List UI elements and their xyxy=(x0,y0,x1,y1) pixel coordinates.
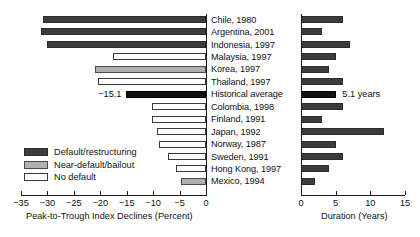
legend-label: No default xyxy=(54,172,96,182)
duration-bar xyxy=(301,128,384,135)
duration-bar xyxy=(301,66,329,73)
legend-swatch-default xyxy=(24,148,48,156)
decline-bar xyxy=(95,66,206,73)
duration-bar xyxy=(301,153,343,160)
category-label: Mexico, 1994 xyxy=(211,176,264,186)
category-label: Finland, 1991 xyxy=(211,114,265,124)
right-axis-tick-label: 15 xyxy=(390,198,420,208)
left-axis-tick xyxy=(206,191,207,195)
category-label: Colombia, 1998 xyxy=(211,102,274,112)
left-panel-zero-axis xyxy=(206,14,207,195)
right-axis-tick xyxy=(405,191,406,195)
category-label: Korea, 1997 xyxy=(211,64,260,74)
decline-bar xyxy=(159,141,206,148)
legend-swatch-none xyxy=(24,173,48,181)
category-label: Norway, 1987 xyxy=(211,139,266,149)
decline-bar xyxy=(181,178,206,185)
category-label: Malaysia, 1997 xyxy=(211,52,271,62)
category-label: Historical average xyxy=(211,89,283,99)
legend-label: Near-default/bailout xyxy=(54,160,134,170)
duration-bar xyxy=(301,103,343,110)
decline-bar xyxy=(168,153,206,160)
duration-bar xyxy=(301,41,350,48)
decline-bar xyxy=(98,78,206,85)
category-label: Sweden, 1991 xyxy=(211,152,269,162)
duration-bar xyxy=(301,53,336,60)
left-axis-tick xyxy=(21,191,22,195)
category-label: Argentina, 2001 xyxy=(211,27,274,37)
category-label: Thailand, 1997 xyxy=(211,77,270,87)
left-axis-tick xyxy=(74,191,75,195)
duration-bar xyxy=(301,141,336,148)
decline-bar xyxy=(157,128,206,135)
category-label: Indonesia, 1997 xyxy=(211,40,275,50)
decline-value-annotation: −15.1 xyxy=(98,89,121,99)
duration-bar xyxy=(301,16,343,23)
duration-bar xyxy=(301,178,315,185)
decline-bar xyxy=(152,103,206,110)
right-axis-tick xyxy=(370,191,371,195)
right-panel-zero-axis xyxy=(301,14,302,195)
left-axis-tick xyxy=(47,191,48,195)
legend-label: Default/restructuring xyxy=(54,147,137,157)
left-panel-axis-line xyxy=(21,195,207,196)
right-axis-tick xyxy=(301,191,302,195)
left-axis-tick-label: 0 xyxy=(191,198,221,208)
category-label: Hong Kong, 1997 xyxy=(211,164,281,174)
right-panel-axis-title: Duration (Years) xyxy=(321,211,388,221)
right-panel-axis-line xyxy=(301,195,405,196)
left-panel-axis-title: Peak-to-Trough Index Declines (Percent) xyxy=(26,211,193,221)
decline-bar xyxy=(47,41,206,48)
duration-bar xyxy=(301,165,329,172)
decline-bar xyxy=(43,16,206,23)
legend-swatch-near xyxy=(24,161,48,169)
decline-bar xyxy=(41,28,206,35)
decline-bar xyxy=(176,165,206,172)
right-axis-tick-label: 5 xyxy=(321,198,351,208)
category-label: Japan, 1992 xyxy=(211,127,260,137)
decline-bar xyxy=(126,91,206,98)
left-axis-tick xyxy=(127,191,128,195)
duration-value-annotation: 5.1 years xyxy=(342,89,380,99)
duration-bar xyxy=(301,28,322,35)
left-axis-tick xyxy=(100,191,101,195)
chart-figure: Chile, 1980Argentina, 2001Indonesia, 199… xyxy=(0,0,420,237)
category-label: Chile, 1980 xyxy=(211,15,256,25)
duration-bar xyxy=(301,91,336,98)
duration-bar xyxy=(301,116,322,123)
decline-bar xyxy=(152,116,206,123)
right-axis-tick-label: 0 xyxy=(286,198,316,208)
left-axis-tick xyxy=(180,191,181,195)
left-axis-tick xyxy=(153,191,154,195)
duration-bar xyxy=(301,78,343,85)
decline-bar xyxy=(113,53,206,60)
right-axis-tick-label: 10 xyxy=(355,198,385,208)
right-axis-tick xyxy=(336,191,337,195)
